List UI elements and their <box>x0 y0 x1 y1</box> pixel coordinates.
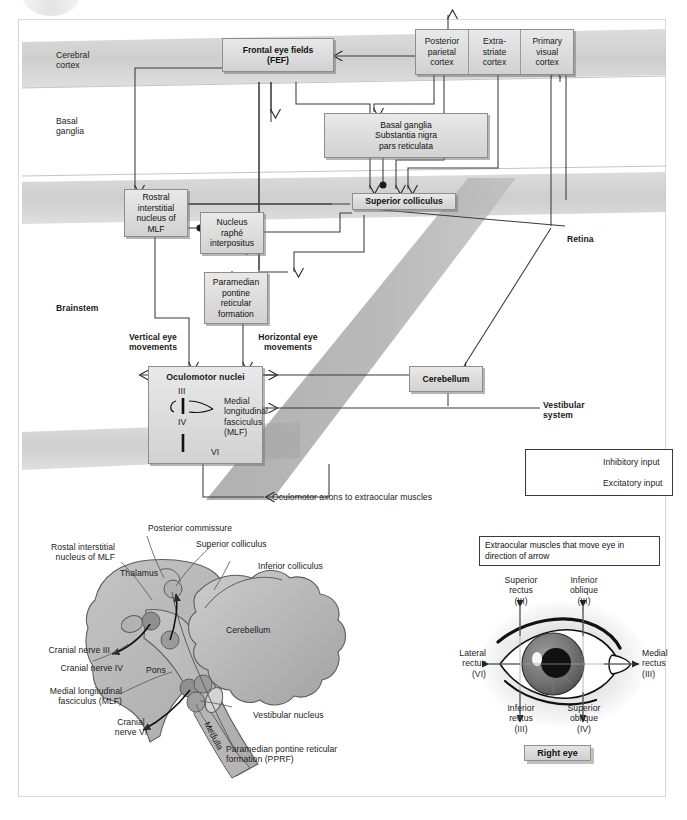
label-pprf-anat: Paramedian pontine reticular formation (… <box>226 744 337 765</box>
label-inferior-rectus: Inferior rectus (III) <box>492 703 550 734</box>
label-cranial-nerve-6: Cranial nerve VI <box>100 717 162 738</box>
right-eye-chip: Right eye <box>524 745 591 761</box>
label-superior-rectus: Superior rectus (III) <box>492 575 550 606</box>
label-vestibular-system: Vestibular system <box>543 400 585 421</box>
label-retina: Retina <box>567 234 594 244</box>
label-thalamus: Thalamus <box>120 568 158 578</box>
label-pons: Pons <box>146 665 166 675</box>
legend-inhibitory-label: Inhibitory input <box>603 457 660 467</box>
label-vertical-eye-movements: Vertical eye movements <box>113 332 193 353</box>
label-horizontal-eye-movements: Horizontal eye movements <box>246 332 330 353</box>
label-cranial-nerve-3: Cranial nerve III <box>10 645 110 655</box>
label-inferior-colliculus: Inferior colliculus <box>258 561 323 571</box>
label-mlf-anat: Medial longitudinal fasciculus (MLF) <box>4 686 122 707</box>
eye-panel-caption: Extraocular muscles that move eye in dir… <box>479 536 660 566</box>
legend-excitatory-label: Excitatory input <box>603 478 663 488</box>
label-medial-rectus: Medial rectus (III) <box>642 648 687 679</box>
label-cerebellum-anat: Cerebellum <box>226 625 270 635</box>
label-cranial-nerve-4: Cranial nerve IV <box>10 663 123 673</box>
label-oculomotor-axons: Oculomotor axons to extraocular muscles <box>272 492 432 502</box>
label-superior-colliculus-anat: Superior colliculus <box>196 539 267 549</box>
label-rostral-mlf-anat: Rostal interstitial nucleus of MLF <box>10 542 115 563</box>
label-inferior-oblique: Inferior oblique (III) <box>555 575 613 606</box>
label-posterior-commissure: Posterior commissure <box>148 523 232 533</box>
label-superior-oblique: Superior oblique (IV) <box>555 703 613 734</box>
label-lateral-rectus: Lateral rectus (VI) <box>441 648 486 679</box>
label-vestibular-nucleus: Vestibular nucleus <box>253 710 324 720</box>
